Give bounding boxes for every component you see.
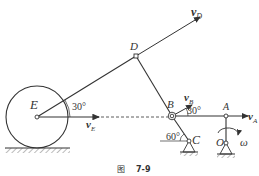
angle-label-C: 60° [166, 131, 180, 142]
label-vE: vE [86, 118, 96, 133]
angle-label-E: 30° [72, 101, 86, 112]
label-omega: ω [240, 136, 248, 148]
omega-arrow [218, 128, 238, 135]
caption-prefix: 图 [117, 165, 125, 174]
angle-label-B: 30° [187, 105, 201, 116]
ground-wheel [5, 148, 70, 153]
label-E: E [29, 97, 38, 112]
label-vA: vA [248, 110, 258, 125]
joint-B [170, 114, 174, 118]
label-B: B [167, 98, 174, 110]
joint-E [35, 115, 39, 119]
mechanism-diagram: E D B A C O vD vE vB vA 30° 30° 60° ω 图 … [0, 0, 259, 176]
label-O: O [216, 136, 224, 148]
joint-A [224, 114, 228, 118]
label-D: D [129, 40, 138, 52]
label-vB: vB [184, 91, 194, 106]
label-vD: vD [191, 5, 202, 21]
angle-arc-C [180, 134, 184, 141]
caption-number: 7-9 [136, 165, 151, 174]
joint-D [134, 54, 138, 58]
label-A: A [222, 101, 230, 112]
velocity-vD-arrow [136, 17, 200, 56]
label-C: C [192, 133, 201, 147]
rod-ED [37, 56, 136, 117]
